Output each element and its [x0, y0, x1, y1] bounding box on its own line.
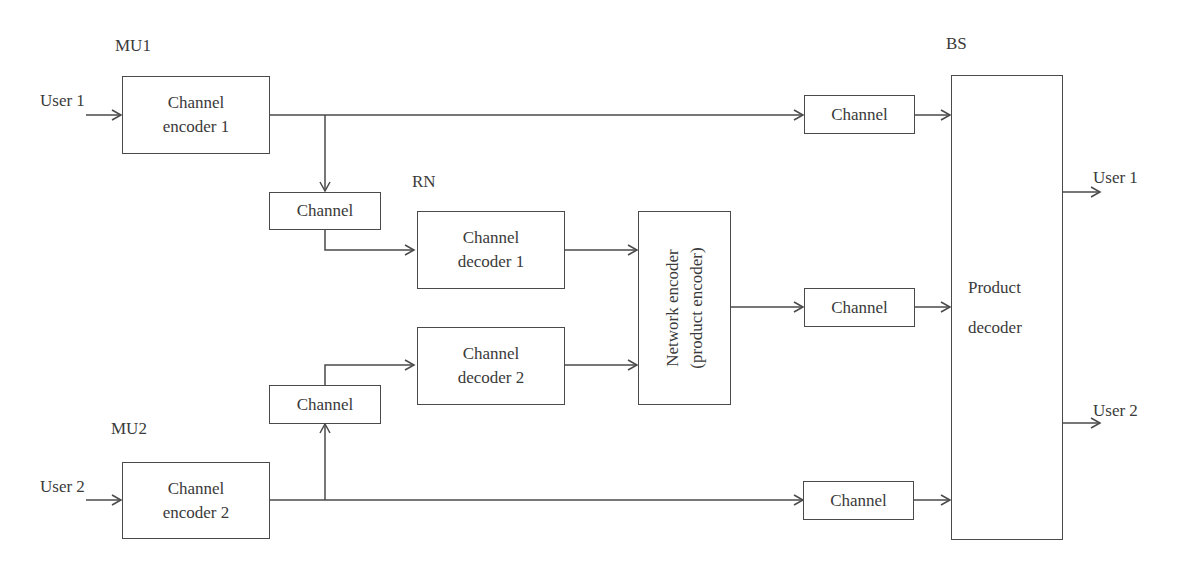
mu1-label: MU1	[115, 36, 151, 56]
user1-output-label: User 1	[1093, 168, 1138, 188]
block-label: Channel	[830, 489, 887, 513]
block-label: (product encoder)	[685, 247, 709, 368]
mu2-label: MU2	[111, 419, 147, 439]
block-label: Channel	[463, 342, 520, 366]
block-label: Network encoder	[661, 247, 685, 368]
channel-encoder-2-block: Channel encoder 2	[122, 462, 270, 539]
network-encoder-block: Network encoder (product encoder)	[638, 211, 731, 405]
block-label: decoder 1	[458, 250, 525, 274]
channel-decoder-2-block: Channel decoder 2	[417, 327, 565, 405]
block-label: encoder 2	[163, 501, 230, 525]
user2-input-label: User 2	[40, 477, 85, 497]
channel-bottom-block: Channel	[803, 481, 914, 520]
rn-label: RN	[412, 172, 436, 192]
block-label: Channel	[831, 296, 888, 320]
block-label: decoder 2	[458, 366, 525, 390]
product-decoder-block: Product decoder	[951, 75, 1063, 540]
relay-channel-2-block: Channel	[269, 385, 381, 424]
channel-encoder-1-block: Channel encoder 1	[122, 76, 270, 154]
channel-top-block: Channel	[804, 95, 915, 134]
channel-decoder-1-block: Channel decoder 1	[417, 211, 565, 289]
relay-channel-1-block: Channel	[269, 192, 381, 230]
block-label: decoder	[968, 308, 1022, 348]
block-label: Channel	[168, 91, 225, 115]
block-label: encoder 1	[163, 115, 230, 139]
user1-input-label: User 1	[40, 91, 85, 111]
channel-middle-block: Channel	[804, 288, 915, 327]
block-label: Channel	[463, 226, 520, 250]
bs-label: BS	[946, 34, 967, 54]
block-label: Channel	[297, 393, 354, 417]
block-label: Channel	[297, 199, 354, 223]
block-label: Channel	[168, 477, 225, 501]
user2-output-label: User 2	[1093, 401, 1138, 421]
block-label: Channel	[831, 103, 888, 127]
block-label: Product	[968, 268, 1021, 308]
